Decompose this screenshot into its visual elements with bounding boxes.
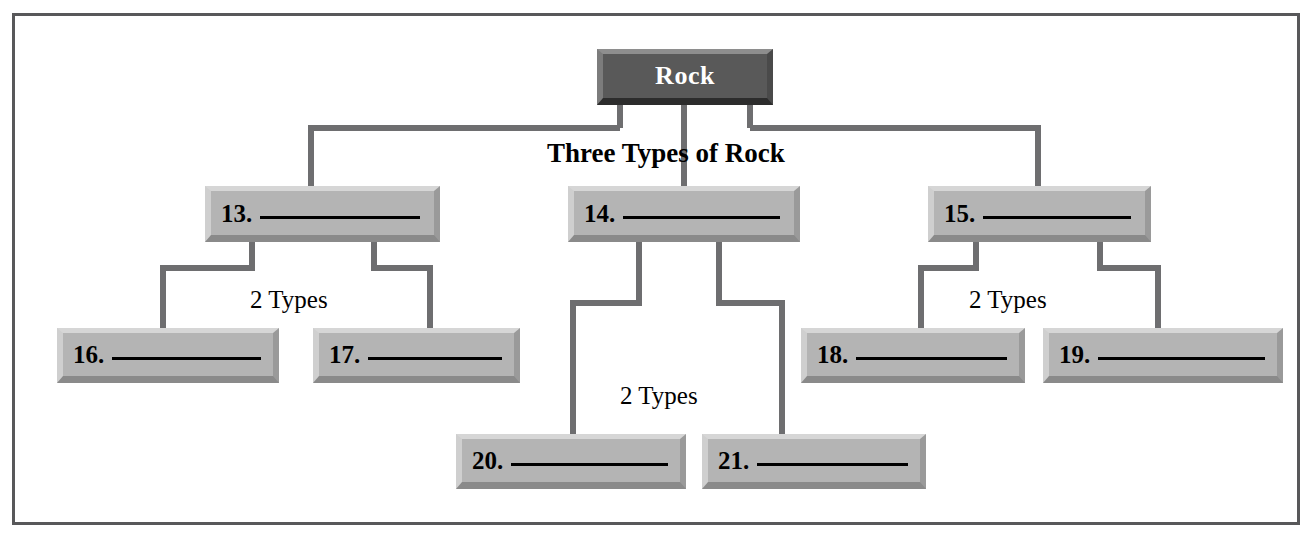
node-16-blank[interactable]	[112, 357, 261, 360]
node-17-blank[interactable]	[368, 357, 502, 360]
node-15-blank[interactable]	[983, 216, 1131, 219]
node-21[interactable]: 21.	[702, 434, 926, 489]
root-label: Rock	[655, 63, 715, 89]
slot-14: 14.	[574, 201, 794, 226]
slot-16: 16.	[63, 342, 273, 367]
diagram-canvas: Rock Three Types of Rock 2 Types 2 Types…	[0, 0, 1312, 539]
node-16[interactable]: 16.	[57, 328, 279, 383]
node-17[interactable]: 17.	[313, 328, 520, 383]
node-13-number: 13.	[221, 201, 252, 226]
node-14-blank[interactable]	[623, 216, 780, 219]
caption-right-branch-2-types: 2 Types	[969, 287, 1047, 312]
wire-root-to-15	[750, 128, 1038, 186]
node-13[interactable]: 13.	[205, 186, 440, 242]
slot-18: 18.	[807, 342, 1019, 367]
caption-middle-branch-2-types: 2 Types	[620, 383, 698, 408]
node-19-number: 19.	[1059, 342, 1090, 367]
slot-15: 15.	[934, 201, 1145, 226]
node-14-number: 14.	[584, 201, 615, 226]
node-20-blank[interactable]	[511, 463, 668, 466]
node-19[interactable]: 19.	[1043, 328, 1283, 383]
node-13-blank[interactable]	[260, 216, 420, 219]
node-18-number: 18.	[817, 342, 848, 367]
node-21-number: 21.	[718, 448, 749, 473]
node-15[interactable]: 15.	[928, 186, 1151, 242]
node-21-blank[interactable]	[757, 463, 908, 466]
node-20[interactable]: 20.	[456, 434, 686, 489]
slot-13: 13.	[211, 201, 434, 226]
slot-19: 19.	[1049, 342, 1277, 367]
node-19-blank[interactable]	[1098, 357, 1265, 360]
wire-13-to-16	[163, 242, 252, 328]
node-18[interactable]: 18.	[801, 328, 1025, 383]
caption-left-branch-2-types: 2 Types	[250, 287, 328, 312]
slot-17: 17.	[319, 342, 514, 367]
slot-21: 21.	[708, 448, 920, 473]
node-14[interactable]: 14.	[568, 186, 800, 242]
node-16-number: 16.	[73, 342, 104, 367]
caption-three-types-of-rock: Three Types of Rock	[547, 140, 785, 167]
wire-13-to-17	[374, 242, 430, 328]
node-20-number: 20.	[472, 448, 503, 473]
node-17-number: 17.	[329, 342, 360, 367]
node-18-blank[interactable]	[856, 357, 1007, 360]
slot-20: 20.	[462, 448, 680, 473]
node-rock-root[interactable]: Rock	[597, 49, 773, 105]
wire-15-to-18	[921, 242, 976, 328]
node-15-number: 15.	[944, 201, 975, 226]
wire-14-to-21	[719, 242, 782, 434]
wire-15-to-19	[1100, 242, 1158, 328]
